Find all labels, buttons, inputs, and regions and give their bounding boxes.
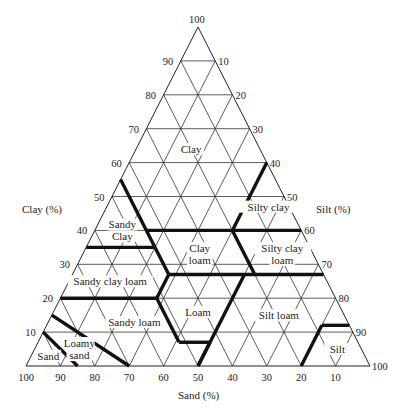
clay-tick-label: 80 <box>146 90 157 101</box>
class-boundary <box>146 230 168 274</box>
texture-class-label: Sandy loam <box>108 316 161 328</box>
silt-tick-label: 10 <box>218 56 229 67</box>
texture-class-label: Silt <box>330 343 345 355</box>
texture-class-label: Loamy <box>64 337 96 349</box>
clay-tick-label: 30 <box>60 259 71 270</box>
silt-tick-label: 80 <box>339 293 350 304</box>
class-boundary <box>301 325 322 366</box>
silt-axis-title: Silt (%) <box>316 203 351 216</box>
clay-tick-label: 20 <box>42 293 53 304</box>
sand-tick-label: 10 <box>330 372 341 383</box>
class-boundary <box>232 230 254 274</box>
texture-class-label: Silty clay <box>248 201 290 213</box>
clay-tick-label: 40 <box>77 225 88 236</box>
texture-class-label: Sandy <box>109 218 137 230</box>
class-boundary <box>157 274 169 298</box>
silt-tick-label: 100 <box>372 361 388 372</box>
soil-texture-triangle: 1020304050607080901001020304050607080901… <box>0 0 407 419</box>
sand-tick-label: 30 <box>262 372 273 383</box>
sand-tick-label: 50 <box>193 372 204 383</box>
sand-tick-label: 60 <box>158 372 169 383</box>
sand-axis-title: Sand (%) <box>178 389 220 402</box>
silt-tick-label: 70 <box>321 259 332 270</box>
texture-class-label: Clay <box>189 242 210 254</box>
texture-class-label: loam <box>189 254 211 266</box>
sand-tick-label: 40 <box>227 372 238 383</box>
texture-class-label: Clay <box>112 230 133 242</box>
sand-tick-label: 20 <box>296 372 307 383</box>
clay-tick-label: 90 <box>163 56 174 67</box>
silt-tick-label: 30 <box>253 124 264 135</box>
texture-class-label: Sand <box>37 350 60 362</box>
grid-lines <box>43 61 353 366</box>
silt-tick-label: 90 <box>356 327 367 338</box>
clay-axis-title: Clay (%) <box>22 203 62 216</box>
texture-class-labels: ClaySandyClaySilty clayClayloamSilty cla… <box>36 143 351 362</box>
sand-tick-label: 90 <box>55 372 66 383</box>
silt-tick-label: 20 <box>235 90 246 101</box>
sand-tick-label: 70 <box>124 372 135 383</box>
texture-class-label: Silt loam <box>259 309 299 321</box>
texture-class-label: Loam <box>185 306 211 318</box>
clay-tick-label: 60 <box>111 158 122 169</box>
sand-tick-label: 80 <box>90 372 101 383</box>
clay-tick-label: 100 <box>189 14 205 25</box>
silt-tick-label: 40 <box>270 158 281 169</box>
sand-tick-label: 100 <box>18 372 34 383</box>
texture-class-label: loam <box>271 254 293 266</box>
texture-class-label: Sandy clay loam <box>74 275 148 287</box>
silt-tick-label: 60 <box>304 225 315 236</box>
class-boundary <box>198 274 244 366</box>
clay-tick-label: 10 <box>25 327 36 338</box>
clay-tick-label: 70 <box>128 124 139 135</box>
texture-class-label: sand <box>69 349 90 361</box>
texture-class-label: Silty clay <box>261 242 303 254</box>
clay-tick-label: 50 <box>94 192 105 203</box>
texture-class-label: Clay <box>181 143 202 155</box>
